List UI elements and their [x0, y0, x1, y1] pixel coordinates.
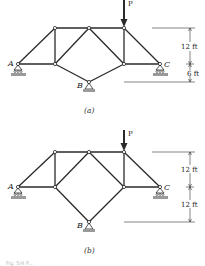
support-label-a-C: C	[164, 60, 170, 69]
figure-footer-caption: Fig. 5/4 P...	[6, 260, 33, 266]
load-label-a: P	[128, 0, 133, 8]
load-arrow-b	[121, 130, 128, 151]
dimension-lower-a: 6 ft	[187, 70, 199, 78]
panel-caption-a: (a)	[84, 106, 94, 115]
truss-joints-b	[53, 150, 125, 188]
pin-support-b-bottom	[83, 220, 95, 232]
truss-joints-a	[53, 26, 125, 65]
dimension-upper-a: 12 ft	[181, 43, 198, 51]
support-label-a-A: A	[7, 59, 14, 68]
dimension-upper-b: 12 ft	[181, 166, 198, 174]
dimension-lower-b: 12 ft	[181, 201, 198, 209]
truss-diagram-a: P A C B	[7, 0, 199, 115]
support-label-b-A: A	[7, 182, 14, 191]
support-label-a-B: B	[76, 81, 83, 90]
support-label-b-B: B	[76, 221, 83, 230]
load-arrow-a	[121, 0, 128, 27]
load-label-b: P	[128, 130, 133, 138]
pin-support-b	[83, 80, 95, 92]
truss-members-a	[18, 28, 160, 82]
support-label-b-C: C	[164, 183, 170, 192]
panel-caption-b: (b)	[84, 246, 95, 255]
truss-members-b	[18, 152, 160, 222]
truss-diagram-b: P A C B	[7, 130, 198, 255]
